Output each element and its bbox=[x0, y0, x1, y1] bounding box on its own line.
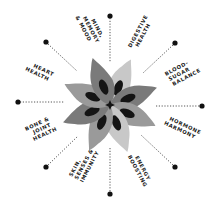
dot-bottom-left bbox=[43, 164, 48, 169]
dot-top-left bbox=[43, 39, 48, 44]
dot-top-right bbox=[172, 40, 177, 45]
label-hormone: HORMONE HARMONY bbox=[163, 114, 204, 142]
label-heart: HEART HEALTH bbox=[25, 60, 58, 84]
label-bone: BONE & JOINT HEALTH bbox=[24, 114, 58, 143]
dot-left bbox=[15, 99, 20, 104]
label-mind: MIND, MEMORY & MOOD bbox=[74, 9, 107, 49]
dot-bottom-right bbox=[172, 164, 177, 169]
dot-right bbox=[199, 103, 204, 108]
label-energy: ENERGY BOOSTING bbox=[127, 151, 154, 188]
label-skin: SKIN, SENSES & IMMUNITY bbox=[68, 143, 101, 184]
wellness-diagram: MIND, MEMORY & MOOD DIGESTIVE HEALTH BLO… bbox=[0, 0, 218, 213]
dot-bottom bbox=[107, 191, 112, 196]
connector-bottom-left bbox=[48, 136, 78, 165]
connector-top-left bbox=[48, 44, 77, 71]
flower-icon bbox=[59, 54, 161, 156]
connector-bottom-right bbox=[141, 135, 173, 165]
dot-top bbox=[107, 13, 112, 18]
label-blood-sugar: BLOOD- SUGAR BALANCE bbox=[164, 56, 202, 88]
label-digestive: DIGESTIVE HEALTH bbox=[127, 12, 156, 52]
